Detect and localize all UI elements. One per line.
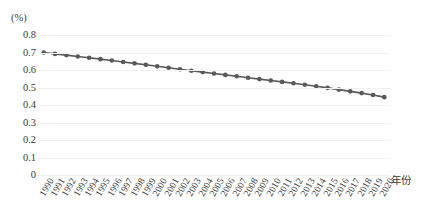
data-point-marker xyxy=(359,91,364,96)
data-point-marker xyxy=(110,58,115,63)
data-point-marker xyxy=(246,75,251,80)
gridline xyxy=(38,158,390,159)
y-axis-tick-label: 0.6 xyxy=(2,65,36,76)
data-point-marker xyxy=(87,55,92,60)
data-point-marker xyxy=(371,93,376,98)
y-axis-tick-label: 0 xyxy=(2,170,36,181)
data-point-marker xyxy=(98,57,103,62)
y-axis-tick-label: 0.3 xyxy=(2,117,36,128)
data-point-marker xyxy=(303,82,308,87)
y-axis-tick-label: 0.7 xyxy=(2,47,36,58)
x-axis-title: 年份 xyxy=(391,172,411,187)
y-axis-tick-label: 0.2 xyxy=(2,135,36,146)
data-point-marker xyxy=(280,80,285,85)
y-axis-tick-labels: 0.80.70.60.50.40.30.20.10 xyxy=(0,0,36,221)
data-point-marker xyxy=(348,89,353,94)
gridline xyxy=(38,35,390,36)
y-axis-tick-label: 0.8 xyxy=(2,30,36,41)
data-point-marker xyxy=(234,74,239,79)
gridline xyxy=(38,105,390,106)
data-point-marker xyxy=(144,62,149,67)
x-axis-tick-labels: 1990199119921993199419951996199719981999… xyxy=(38,175,390,221)
data-point-marker xyxy=(132,61,137,66)
gridline xyxy=(38,70,390,71)
data-point-marker xyxy=(75,54,80,59)
data-point-marker xyxy=(291,81,296,86)
gridline xyxy=(38,88,390,89)
line-chart: (%) 0.80.70.60.50.40.30.20.10 1990199119… xyxy=(0,0,425,221)
gridline xyxy=(38,140,390,141)
gridline xyxy=(38,123,390,124)
data-point-marker xyxy=(155,64,160,69)
data-point-marker xyxy=(268,78,273,83)
gridline xyxy=(38,53,390,54)
data-point-marker xyxy=(64,53,69,58)
data-point-marker xyxy=(121,60,126,65)
y-axis-tick-label: 0.5 xyxy=(2,82,36,93)
data-point-marker xyxy=(257,77,262,82)
y-axis-tick-label: 0.1 xyxy=(2,152,36,163)
data-point-marker xyxy=(382,95,387,100)
y-axis-tick-label: 0.4 xyxy=(2,100,36,111)
data-point-marker xyxy=(212,71,217,76)
data-point-marker xyxy=(223,73,228,78)
plot-area xyxy=(38,35,390,175)
